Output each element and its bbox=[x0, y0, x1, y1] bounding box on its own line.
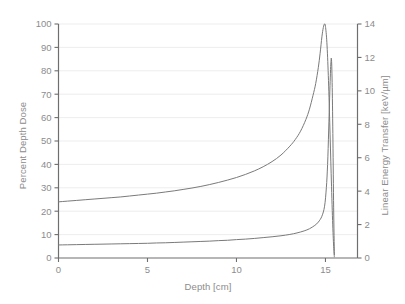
y-axis-right-tick-label: 8 bbox=[365, 119, 370, 130]
y-axis-right-tick-label: 0 bbox=[365, 252, 370, 263]
y-axis-right-tick-label: 12 bbox=[365, 52, 376, 63]
y-axis-right-tick-label: 6 bbox=[365, 152, 370, 163]
y-axis-right-tick-label: 4 bbox=[365, 186, 370, 197]
y-axis-left-tick-label: 30 bbox=[41, 182, 52, 193]
x-axis-tick-label: 5 bbox=[145, 264, 150, 275]
y-axis-left-tick-label: 100 bbox=[36, 18, 52, 29]
y-axis-left-tick-label: 40 bbox=[41, 159, 52, 170]
y-axis-left-tick-label: 60 bbox=[41, 112, 52, 123]
y-axis-left-tick-label: 0 bbox=[46, 252, 51, 263]
y-axis-right-title: Linear Energy Transfer [keV/µm] bbox=[379, 71, 390, 221]
y-axis-right-tick-label: 10 bbox=[365, 85, 376, 96]
y-axis-left-tick-label: 80 bbox=[41, 65, 52, 76]
x-axis-title: Depth [cm] bbox=[128, 281, 288, 292]
chart-figure: 010203040506070809010002468101214051015 … bbox=[0, 0, 405, 304]
y-axis-left-tick-label: 10 bbox=[41, 229, 52, 240]
y-axis-right-tick-label: 2 bbox=[365, 219, 370, 230]
y-axis-left-tick-label: 20 bbox=[41, 206, 52, 217]
y-axis-left-title: Percent Depth Dose bbox=[17, 71, 28, 221]
y-axis-left-tick-label: 90 bbox=[41, 42, 52, 53]
x-axis-tick-label: 15 bbox=[320, 264, 331, 275]
y-axis-right-tick-label: 14 bbox=[365, 18, 376, 29]
y-axis-left-tick-label: 70 bbox=[41, 89, 52, 100]
x-axis-tick-label: 10 bbox=[231, 264, 242, 275]
dose-let-depth-chart: 010203040506070809010002468101214051015 bbox=[0, 0, 405, 304]
y-axis-left-tick-label: 50 bbox=[41, 135, 52, 146]
x-axis-tick-label: 0 bbox=[56, 264, 61, 275]
